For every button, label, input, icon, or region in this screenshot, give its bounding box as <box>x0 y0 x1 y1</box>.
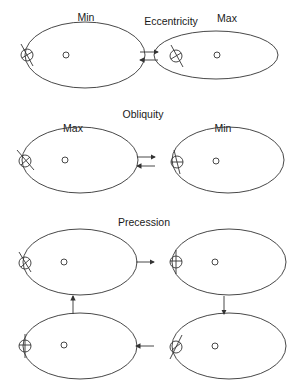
orbital-diagram <box>0 0 288 382</box>
orbit-obliquity-max <box>17 127 138 193</box>
arrows-obliquity <box>137 157 155 166</box>
earth-icon <box>17 150 34 170</box>
arrows-eccentricity <box>140 52 158 60</box>
orbit-precession-2 <box>170 229 286 295</box>
sun-icon <box>61 259 67 265</box>
orbit-precession-3 <box>170 313 286 379</box>
earth-icon <box>19 252 31 272</box>
sun-icon <box>61 342 67 348</box>
sun-icon <box>212 343 218 349</box>
sun-icon <box>212 259 218 265</box>
orbit-eccentricity-max <box>154 31 278 79</box>
orbit-precession-1 <box>19 229 137 295</box>
earth-icon <box>19 334 31 358</box>
sun-icon <box>213 158 219 164</box>
orbit-eccentricity-min <box>21 22 145 88</box>
orbit-precession-4 <box>19 313 137 379</box>
earth-icon <box>170 45 183 67</box>
orbit-obliquity-min <box>171 127 284 193</box>
sun-icon <box>214 52 220 58</box>
sun-icon <box>63 52 69 58</box>
sun-icon <box>62 157 68 163</box>
